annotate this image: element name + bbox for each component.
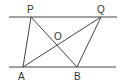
label-Q: Q [97, 4, 105, 15]
label-O: O [54, 31, 62, 42]
label-B: B [74, 71, 81, 82]
label-A: A [18, 71, 25, 82]
segment-PA [23, 17, 31, 67]
label-P: P [27, 4, 34, 15]
segment-PB [31, 17, 77, 67]
geometry-diagram: P Q O A B [0, 0, 124, 84]
